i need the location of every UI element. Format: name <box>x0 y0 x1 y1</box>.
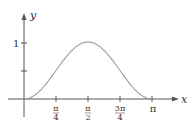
x-tick-label-3pi4-den: 4 <box>117 113 122 122</box>
x-axis-label: x <box>181 93 188 106</box>
x-tick-label-pi2-den: 2 <box>85 113 90 122</box>
sin-squared-plot: y x 1 π 4 π 2 3π 4 π <box>0 0 193 126</box>
x-tick-label-pi2-num: π <box>85 104 90 113</box>
y-tick-label-one: 1 <box>13 38 19 49</box>
y-axis-label: y <box>29 9 37 22</box>
x-axis-arrow-icon <box>172 97 179 102</box>
x-tick-label-pi: π <box>150 103 157 114</box>
x-tick-label-3pi4-num: 3π <box>115 104 125 113</box>
x-tick-label-pi4-den: 4 <box>53 113 58 122</box>
x-tick-label-pi4-num: π <box>53 104 58 113</box>
y-axis-arrow-icon <box>22 13 27 20</box>
sin-squared-curve <box>24 42 152 99</box>
